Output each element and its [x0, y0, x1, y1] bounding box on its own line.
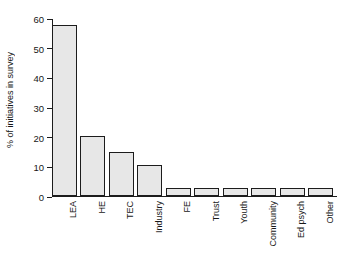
bar-industry [137, 165, 162, 196]
bar-lea [52, 25, 77, 196]
bar-community [251, 188, 276, 196]
x-label-ed-psych: Ed psych [296, 201, 306, 266]
y-axis-title: % of initiatives in survey [0, 0, 20, 200]
bar-youth [223, 188, 248, 196]
x-axis-line [52, 196, 337, 197]
y-tick-0: 0 [47, 197, 52, 198]
y-tick-60: 60 [47, 19, 52, 20]
y-tick-label-30: 30 [33, 103, 44, 114]
x-label-fe: FE [182, 201, 192, 266]
x-label-he: HE [97, 201, 107, 266]
bar-he [80, 136, 105, 196]
x-label-youth: Youth [239, 201, 249, 266]
y-axis-title-label: % of initiatives in survey [5, 52, 15, 148]
x-label-trust: Trust [211, 201, 221, 266]
y-tick-label-20: 20 [33, 132, 44, 143]
y-tick-label-60: 60 [33, 14, 44, 25]
bar-other [308, 188, 333, 196]
y-tick-label-50: 50 [33, 43, 44, 54]
x-label-other: Other [325, 201, 335, 266]
x-label-community: Community [268, 201, 278, 266]
bar-chart: % of initiatives in survey 0102030405060… [0, 0, 361, 266]
y-tick-label-10: 10 [33, 162, 44, 173]
bar-fe [166, 188, 191, 196]
x-label-lea: LEA [68, 201, 78, 266]
x-label-industry: Industry [154, 201, 164, 266]
bar-trust [194, 188, 219, 196]
bar-tec [109, 152, 134, 196]
x-label-tec: TEC [125, 201, 135, 266]
bar-ed-psych [280, 188, 305, 196]
plot-area: 0102030405060 LEAHETECIndustryFETrustYou… [52, 19, 337, 197]
y-tick-label-0: 0 [39, 192, 44, 203]
y-tick-label-40: 40 [33, 73, 44, 84]
